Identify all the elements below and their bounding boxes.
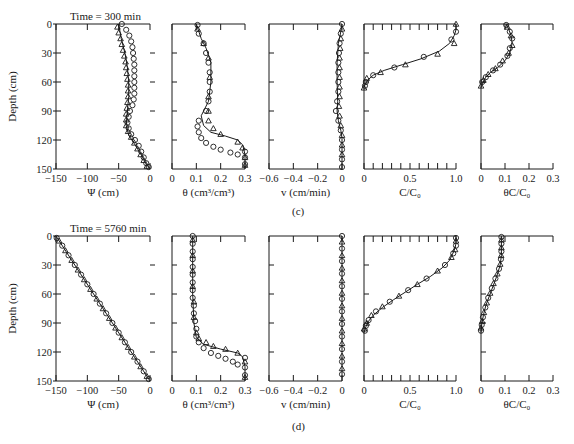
row-title: Time = 300 min xyxy=(70,10,141,22)
triangle-marker xyxy=(125,88,131,93)
circle-marker xyxy=(124,27,129,32)
circle-marker xyxy=(235,152,240,157)
triangle-marker xyxy=(435,51,441,56)
circle-marker xyxy=(333,108,338,113)
triangle-marker xyxy=(124,71,130,76)
triangle-marker xyxy=(124,105,130,110)
x-tick-label: −0.6 xyxy=(259,173,278,184)
x-tick-label: −0.4 xyxy=(284,385,304,396)
x-tick-label: 0 xyxy=(147,173,152,184)
circle-marker xyxy=(230,359,235,364)
y-tick-label: 0 xyxy=(47,19,52,30)
circle-marker xyxy=(132,85,137,90)
model-curve xyxy=(364,24,456,88)
triangle-marker xyxy=(122,53,128,58)
triangle-marker xyxy=(203,340,209,345)
circle-marker xyxy=(203,140,208,145)
x-tick-label: −100 xyxy=(76,173,98,184)
circle-marker xyxy=(218,147,223,152)
x-tick-label: 0.1 xyxy=(190,385,203,396)
x-axis-label: Ψ (cm) xyxy=(87,398,119,411)
x-tick-label: 0.2 xyxy=(214,385,227,396)
x-axis-label: C/C₀ xyxy=(399,398,421,410)
x-tick-label: −50 xyxy=(110,173,126,184)
x-tick-label: −50 xyxy=(110,385,126,396)
subplot-c-4: 00.10.20.3θC/C₀ xyxy=(478,22,559,198)
circle-marker xyxy=(129,39,134,44)
circle-marker xyxy=(132,68,137,73)
x-tick-label: 0.1 xyxy=(190,173,203,184)
circle-marker xyxy=(336,60,341,65)
circle-marker xyxy=(206,60,211,65)
y-tick-label: 30 xyxy=(42,48,53,59)
x-tick-label: −150 xyxy=(45,173,67,184)
model-curve xyxy=(193,236,245,381)
x-tick-label: −0.4 xyxy=(284,173,304,184)
circle-marker xyxy=(208,350,213,355)
triangle-marker xyxy=(240,145,246,150)
circle-marker xyxy=(132,62,137,67)
circle-marker xyxy=(216,353,221,358)
subplot-c-3: 00.51.0C/C₀ xyxy=(361,21,462,198)
x-tick-label: −0.6 xyxy=(259,385,278,396)
circle-marker xyxy=(127,108,132,113)
x-tick-label: 0 xyxy=(147,385,152,396)
x-tick-label: 0.3 xyxy=(546,385,559,396)
x-tick-label: 0.5 xyxy=(403,173,416,184)
triangle-marker xyxy=(211,343,217,348)
circle-marker xyxy=(336,50,341,55)
x-tick-label: 0 xyxy=(361,173,366,184)
x-tick-label: 0 xyxy=(169,385,174,396)
subplot-d-3: 00.51.0C/C₀ xyxy=(361,235,462,410)
circle-marker xyxy=(207,79,212,84)
figure: Time = 300 minDepth (cm)0306090120150−15… xyxy=(0,0,574,444)
x-axis-label: θ (cm³/cm³) xyxy=(183,186,235,199)
panel-label-c: (c) xyxy=(292,205,304,217)
x-tick-label: 0.3 xyxy=(238,173,251,184)
circle-marker xyxy=(387,299,392,304)
subplot-c-2: −0.6−0.4−0.20v (cm/min) xyxy=(259,21,344,199)
circle-marker xyxy=(130,50,135,55)
circle-marker xyxy=(235,362,240,367)
x-axis-label: θC/C₀ xyxy=(504,398,531,410)
circle-marker xyxy=(132,91,137,96)
circle-marker xyxy=(130,45,135,50)
circle-marker xyxy=(196,118,201,123)
x-tick-label: 0 xyxy=(339,385,344,396)
circle-marker xyxy=(336,70,341,75)
y-axis-label: Depth (cm) xyxy=(6,283,19,334)
triangle-marker xyxy=(207,74,213,79)
x-axis-label: θ (cm³/cm³) xyxy=(183,398,235,411)
x-tick-label: 0.3 xyxy=(238,385,251,396)
triangle-marker xyxy=(119,42,125,47)
y-tick-label: 90 xyxy=(42,106,53,117)
circle-marker xyxy=(195,124,200,129)
x-tick-label: 0 xyxy=(361,385,366,396)
x-tick-label: 0.5 xyxy=(403,385,416,396)
x-tick-label: 0.2 xyxy=(214,173,227,184)
y-tick-label: 60 xyxy=(42,77,53,88)
circle-marker xyxy=(199,135,204,140)
triangle-marker xyxy=(123,59,129,64)
circle-marker xyxy=(337,41,342,46)
x-tick-label: −100 xyxy=(76,385,98,396)
triangle-marker xyxy=(120,47,126,52)
circle-marker xyxy=(228,150,233,155)
model-curve xyxy=(364,236,456,333)
y-tick-label: 120 xyxy=(36,135,52,146)
circle-marker xyxy=(201,346,206,351)
circle-marker xyxy=(132,79,137,84)
subplot-c-0: −150−100−500Ψ (cm) xyxy=(45,21,155,199)
x-tick-label: −0.2 xyxy=(308,173,327,184)
circle-marker xyxy=(132,74,137,79)
circle-marker xyxy=(336,89,341,94)
circle-marker xyxy=(127,33,132,38)
y-axis-label: Depth (cm) xyxy=(6,71,19,122)
x-tick-label: 0 xyxy=(478,173,483,184)
x-tick-label: 1.0 xyxy=(449,385,462,396)
circle-marker xyxy=(196,130,201,135)
y-tick-label: 120 xyxy=(36,347,52,358)
x-tick-label: 0.3 xyxy=(546,173,559,184)
x-tick-label: −150 xyxy=(45,385,67,396)
subplot-d-4: 00.10.20.3θC/C₀ xyxy=(478,234,559,410)
